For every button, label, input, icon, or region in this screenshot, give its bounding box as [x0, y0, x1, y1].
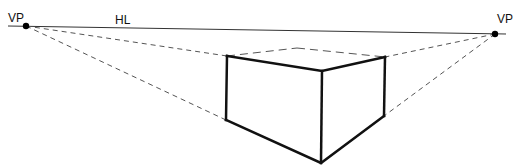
- hidden-edge-back-left: [227, 48, 297, 56]
- box-edge-left-vertical: [226, 56, 227, 120]
- horizon-line: [8, 26, 506, 34]
- right-vp-label: VP: [497, 13, 513, 25]
- perspective-diagram: VP VP HL: [0, 0, 516, 167]
- right-vanishing-point: [492, 31, 498, 37]
- guide-line-right-bottom: [384, 34, 495, 116]
- box-edge-front-vertical: [321, 71, 322, 163]
- guide-line-right-top: [385, 34, 495, 57]
- guide-line-left-top: [26, 26, 227, 56]
- hidden-edge-back-right: [297, 48, 385, 57]
- box-top-edges: [227, 56, 385, 71]
- left-vp-label: VP: [8, 12, 24, 24]
- guide-line-left-bottom: [26, 26, 226, 120]
- diagram-canvas: [0, 0, 516, 167]
- box-bottom-edges: [226, 116, 384, 163]
- box-edge-right-vertical: [384, 57, 385, 116]
- horizon-label: HL: [115, 14, 130, 26]
- box: [226, 56, 385, 163]
